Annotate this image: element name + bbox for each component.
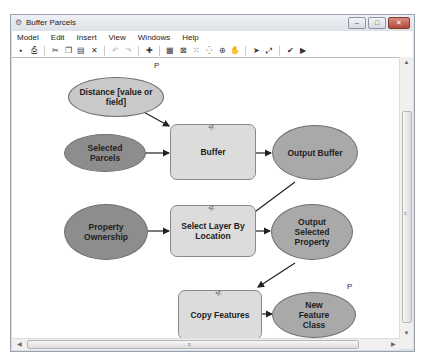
selected-parcels-variable[interactable]: Selected Parcels: [64, 134, 146, 172]
menu-model[interactable]: Model: [17, 33, 39, 42]
zoom-in-icon[interactable]: ⊕: [217, 46, 227, 56]
menu-windows[interactable]: Windows: [138, 33, 170, 42]
validate-icon[interactable]: ✔: [285, 46, 295, 56]
model-canvas[interactable]: P P Distance [value or field] Selected P…: [12, 57, 400, 339]
auto-layout-icon[interactable]: ▦: [165, 46, 175, 56]
model-icon: ⚙: [15, 18, 22, 27]
window-title: Buffer Parcels: [26, 18, 76, 27]
menu-edit[interactable]: Edit: [51, 33, 65, 42]
close-button[interactable]: ✕: [388, 17, 410, 29]
redo-icon[interactable]: ↷: [123, 46, 133, 56]
copy-icon[interactable]: ❐: [63, 46, 73, 56]
node-label: Output Selected Property: [286, 217, 338, 247]
vertical-scroll-thumb[interactable]: ≡: [402, 111, 412, 323]
toolbar: ▪ ⎙ ✂ ❐ ▤ ✕ ↶ ↷ ✚ ▦ ⊠ ⁙ ⁛ ⊕ ✋ ➤ ⤢ ✔ ▶: [12, 44, 413, 57]
connect-icon[interactable]: ⤢: [264, 46, 274, 56]
copy-features-tool[interactable]: ⚒ Copy Features: [178, 290, 262, 339]
toolbar-separator: [44, 46, 45, 56]
node-label: Selected Parcels: [81, 143, 129, 163]
model-builder-window: ⚙ Buffer Parcels – □ ✕ Model Edit Insert…: [10, 14, 415, 352]
node-label: Distance [value or field]: [79, 87, 153, 107]
print-icon[interactable]: ⎙: [29, 46, 39, 56]
delete-icon[interactable]: ✕: [89, 46, 99, 56]
menu-insert[interactable]: Insert: [77, 33, 97, 42]
grip-icon: ≡: [404, 210, 407, 216]
output-buffer-variable[interactable]: Output Buffer: [272, 125, 358, 180]
cut-icon[interactable]: ✂: [50, 46, 60, 56]
hammer-icon: ⚒: [207, 203, 217, 215]
horizontal-scrollbar[interactable]: ◀ ≡ ▶: [12, 338, 400, 350]
menu-help[interactable]: Help: [182, 33, 198, 42]
hammer-icon: ⚒: [214, 288, 224, 300]
undo-icon[interactable]: ↶: [110, 46, 120, 56]
node-label: Output Buffer: [287, 148, 342, 158]
toolbar-separator: [138, 46, 139, 56]
scroll-corner: [400, 338, 413, 349]
hammer-icon: ⚒: [207, 122, 217, 134]
node-label: Property Ownership: [81, 222, 131, 242]
distance-variable[interactable]: Distance [value or field]: [68, 77, 164, 117]
fixed-zoom-out-icon[interactable]: ⁛: [204, 46, 214, 56]
node-label: Copy Features: [190, 310, 249, 320]
toolbar-separator: [279, 46, 280, 56]
title-bar[interactable]: ⚙ Buffer Parcels – □ ✕: [11, 15, 414, 31]
parameter-marker: P: [347, 282, 352, 291]
toolbar-separator: [104, 46, 105, 56]
scroll-left-icon[interactable]: ◀: [14, 339, 24, 350]
select-icon[interactable]: ➤: [251, 46, 261, 56]
scroll-up-icon[interactable]: ▲: [400, 57, 413, 67]
scroll-right-icon[interactable]: ▶: [388, 339, 398, 350]
scroll-down-icon[interactable]: ▼: [400, 328, 413, 338]
maximize-button[interactable]: □: [368, 17, 386, 29]
horizontal-scroll-thumb[interactable]: ≡: [27, 340, 359, 349]
minimize-button[interactable]: –: [348, 17, 366, 29]
add-data-icon[interactable]: ✚: [144, 46, 154, 56]
grip-icon: ≡: [188, 341, 191, 347]
node-label: Select Layer By Location: [179, 221, 247, 241]
property-ownership-variable[interactable]: Property Ownership: [64, 204, 148, 260]
buffer-tool[interactable]: ⚒ Buffer: [170, 124, 256, 180]
fixed-zoom-in-icon[interactable]: ⁙: [191, 46, 201, 56]
select-layer-by-location-tool[interactable]: ⚒ Select Layer By Location: [170, 205, 256, 257]
output-selected-property-variable[interactable]: Output Selected Property: [271, 204, 353, 260]
pan-icon[interactable]: ✋: [230, 46, 240, 56]
menu-bar: Model Edit Insert View Windows Help: [12, 31, 413, 44]
new-feature-class-variable[interactable]: New Feature Class: [272, 292, 356, 338]
paste-icon[interactable]: ▤: [76, 46, 86, 56]
vertical-scrollbar[interactable]: ▲ ≡ ▼: [399, 57, 413, 338]
run-icon[interactable]: ▶: [298, 46, 308, 56]
save-icon[interactable]: ▪: [16, 46, 26, 56]
parameter-marker: P: [154, 61, 159, 70]
full-extent-icon[interactable]: ⊠: [178, 46, 188, 56]
node-label: Buffer: [200, 147, 225, 157]
toolbar-separator: [159, 46, 160, 56]
toolbar-separator: [245, 46, 246, 56]
menu-view[interactable]: View: [109, 33, 126, 42]
node-label: New Feature Class: [289, 300, 339, 330]
